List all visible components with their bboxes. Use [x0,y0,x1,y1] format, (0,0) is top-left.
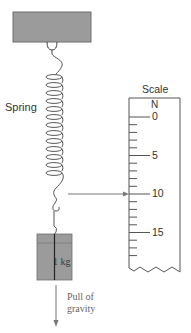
top-hook-icon [47,42,57,54]
scale-unit-label: N [151,100,158,110]
gravity-label-line2: gravity [67,304,95,314]
scale-body [129,98,180,272]
scale-title: Scale [142,84,168,95]
gravity-label-line1: Pull of [67,292,94,302]
mass-label: 1 kg [53,257,71,267]
scale-tick-label-0: 0 [152,111,158,122]
diagram-canvas [0,0,191,333]
spring-icon [46,54,63,234]
gravity-arrow-icon [54,285,59,327]
scale-tick-label-10: 10 [152,188,164,199]
spring-label: Spring [5,102,37,113]
scale-tick-label-15: 15 [152,227,164,238]
scale-tick-label-5: 5 [152,150,158,161]
pointer-arrow-icon [68,192,129,197]
ceiling-support [13,12,91,42]
